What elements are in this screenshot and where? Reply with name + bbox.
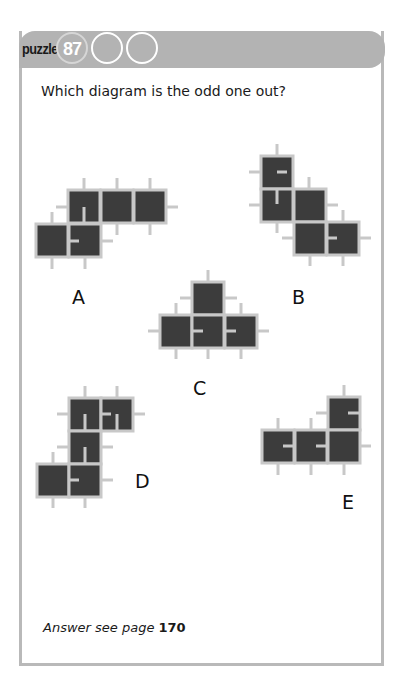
square-tile [192,282,224,315]
diagram-label-a: A [72,286,85,308]
square-tile [160,315,192,348]
answer-prefix: Answer see page [43,620,154,635]
square-tile [328,430,360,463]
square-tile [294,189,326,222]
diagram-c [148,270,269,359]
square-tile [294,222,326,255]
square-tile [134,190,166,223]
answer-page: 170 [159,620,186,635]
diagram-label-e: E [342,491,354,513]
diagram-a [36,178,178,269]
diagram-label-b: B [292,286,305,308]
square-tile [101,190,133,223]
diagram-label-c: C [193,377,206,399]
square-tile [37,464,69,497]
square-tile [36,224,68,257]
diagram-e [262,385,371,475]
diagram-canvas [0,0,403,692]
answer-reference: Answer see page 170 [43,620,186,635]
diagram-b [249,144,371,266]
diagram-label-d: D [135,470,150,492]
diagram-d [37,386,145,508]
